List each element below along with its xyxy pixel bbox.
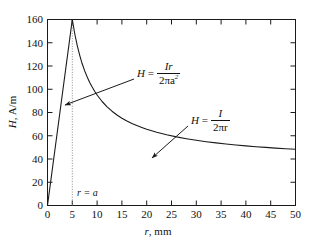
y-tick-labels: 0 20 40 60 80 100 120 140 160: [27, 13, 44, 211]
x-tick-label: 15: [116, 208, 128, 220]
y-tick-label: 60: [32, 130, 44, 142]
annotation-formula-outside: H =I2πr: [191, 108, 230, 133]
figure-chart-magnetic-field: 0 5 10 15 20 25 30 35 40 45 50 0 20 40 6…: [0, 0, 315, 243]
x-axis-title-unit: , mm: [149, 225, 172, 237]
plot-frame: [48, 20, 296, 206]
x-tick-label: 5: [70, 208, 76, 220]
leader-line-formula-outside: [152, 126, 188, 158]
x-axis-title: r, mm: [145, 225, 172, 237]
x-tick-label: 35: [216, 208, 228, 220]
y-axis-title: H, A/m: [6, 95, 18, 129]
formula-outside-denominator: 2πr: [213, 120, 228, 132]
plot-canvas: 0 5 10 15 20 25 30 35 40 45 50 0 20 40 6…: [0, 0, 315, 243]
x-tick-label: 30: [191, 208, 203, 220]
x-tick-labels: 0 5 10 15 20 25 30 35 40 45 50: [45, 208, 302, 220]
formula-inside-denominator: 2πa: [159, 73, 175, 85]
y-tick-label: 100: [27, 83, 44, 95]
x-tick-label: 0: [45, 208, 51, 220]
y-tick-label: 80: [32, 106, 44, 118]
y-axis-ticks-right: [291, 43, 296, 183]
svg-text:H, A/m: H, A/m: [6, 95, 18, 129]
formula-inside-equals: =: [148, 67, 154, 79]
annotation-radius-label: r = a: [77, 187, 98, 198]
x-tick-label: 10: [92, 208, 104, 220]
formula-inside-denominator-exponent: 2: [175, 73, 179, 81]
y-axis-title-unit: , A/m: [6, 95, 18, 120]
x-tick-label: 20: [141, 208, 153, 220]
x-tick-label: 50: [290, 208, 302, 220]
x-axis-ticks-top: [72, 20, 270, 25]
svg-text:r, mm: r, mm: [145, 225, 172, 237]
x-axis-ticks: [48, 201, 296, 206]
y-tick-label: 120: [27, 60, 44, 72]
y-tick-label: 0: [38, 199, 44, 211]
x-tick-label: 25: [166, 208, 178, 220]
formula-outside-lhs: H: [191, 114, 199, 126]
formula-inside-lhs: H: [137, 67, 145, 79]
formula-outside-numerator: I: [211, 108, 230, 121]
y-tick-label: 140: [27, 37, 44, 49]
y-tick-label: 160: [27, 13, 44, 25]
annotation-formula-inside: H =Ir2πa2: [137, 61, 180, 86]
x-tick-label: 45: [265, 208, 277, 220]
y-tick-label: 20: [32, 176, 44, 188]
leader-line-formula-inside: [65, 79, 134, 105]
y-tick-label: 40: [32, 153, 44, 165]
formula-outside-equals: =: [202, 114, 208, 126]
x-tick-label: 40: [240, 208, 252, 220]
